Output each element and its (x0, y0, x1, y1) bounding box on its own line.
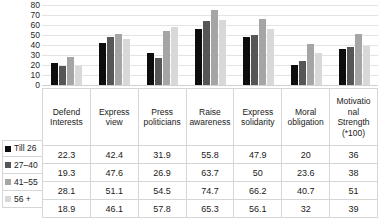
bar (211, 10, 218, 85)
bar (67, 57, 74, 85)
y-axis-tick-label: 20 (18, 61, 40, 70)
table-cell: 57.8 (138, 200, 186, 218)
legend-swatch-icon (5, 162, 11, 168)
bar (259, 19, 266, 85)
table-cell: 47.6 (90, 164, 138, 182)
table-cell: 42.4 (90, 146, 138, 164)
bar (251, 35, 258, 85)
table-header-row: Defend InterestsExpress viewPress politi… (43, 89, 378, 146)
bar-groups (42, 5, 378, 85)
bar (339, 49, 346, 85)
y-axis-tick-label: 50 (18, 31, 40, 40)
table-cell: 32 (282, 200, 330, 218)
bar-chart-with-data-table: 80706050403020100 Till 2627–4041–5556 + … (0, 0, 378, 218)
bar (75, 66, 82, 85)
table-cell: 40.7 (282, 182, 330, 200)
table-cell: 26.9 (138, 164, 186, 182)
legend-label: 56 + (14, 195, 31, 204)
bar (123, 39, 130, 85)
table-cell: 51.1 (90, 182, 138, 200)
table-cell: 74.7 (186, 182, 234, 200)
bar (195, 29, 202, 85)
data-table: Defend InterestsExpress viewPress politi… (42, 88, 378, 218)
column-header: Express view (90, 89, 138, 146)
bar (307, 44, 314, 85)
bar (171, 27, 178, 85)
bar (299, 61, 306, 85)
legend-swatch-icon (5, 196, 11, 202)
plot-area (42, 5, 378, 85)
bar (155, 58, 162, 85)
column-header: Motivatio nal Strength (*100) (330, 89, 378, 146)
table-cell: 51 (330, 182, 378, 200)
table-cell: 46.1 (90, 200, 138, 218)
table-cell: 47.9 (234, 146, 282, 164)
bar (291, 65, 298, 85)
bar (355, 34, 362, 85)
bar (59, 66, 66, 85)
y-axis-tick-label: 30 (18, 51, 40, 60)
bar-group (90, 5, 138, 85)
bar (347, 47, 354, 85)
table-cell: 38 (330, 164, 378, 182)
table-cell: 54.5 (138, 182, 186, 200)
bar (147, 53, 154, 85)
bar-group (42, 5, 90, 85)
legend-column: Till 2627–4041–5556 + (2, 140, 43, 208)
bar-group (234, 5, 282, 85)
legend-label: 27–40 (14, 161, 38, 170)
bar (115, 34, 122, 85)
table-cell: 31.9 (138, 146, 186, 164)
bar (243, 37, 250, 85)
bar-group (282, 5, 330, 85)
table-cell: 55.8 (186, 146, 234, 164)
y-axis-tick-label: 60 (18, 21, 40, 30)
legend-label: Till 26 (14, 144, 36, 153)
legend-swatch-icon (5, 179, 11, 185)
bar (107, 37, 114, 85)
bar (99, 43, 106, 85)
legend-item: Till 26 (2, 140, 43, 157)
table-cell: 50 (234, 164, 282, 182)
bar (267, 29, 274, 85)
legend-swatch-icon (5, 146, 11, 152)
column-header: Press politicians (138, 89, 186, 146)
bar (315, 53, 322, 85)
gridline (42, 85, 378, 86)
bar-group (186, 5, 234, 85)
column-header: Moral obligation (282, 89, 330, 146)
table-row: 28.151.154.574.766.240.751 (43, 182, 378, 200)
table-cell: 28.1 (43, 182, 91, 200)
y-axis: 80706050403020100 (18, 5, 40, 85)
y-axis-tick-label: 80 (18, 1, 40, 10)
table-cell: 65.3 (186, 200, 234, 218)
legend-item: 27–40 (2, 157, 43, 174)
column-header: Defend Interests (43, 89, 91, 146)
bar (203, 21, 210, 85)
table-row: 19.347.626.963.75023.638 (43, 164, 378, 182)
legend-item: 56 + (2, 191, 43, 208)
legend-item: 41–55 (2, 174, 43, 191)
table-cell: 18.9 (43, 200, 91, 218)
table-row: 22.342.431.955.847.92036 (43, 146, 378, 164)
y-axis-tick-label: 40 (18, 41, 40, 50)
bar (219, 20, 226, 85)
table-cell: 56.1 (234, 200, 282, 218)
column-header: Raise awareness (186, 89, 234, 146)
table-cell: 19.3 (43, 164, 91, 182)
y-axis-tick-label: 70 (18, 11, 40, 20)
table-cell: 22.3 (43, 146, 91, 164)
table-cell: 39 (330, 200, 378, 218)
legend-label: 41–55 (14, 178, 38, 187)
bar (51, 63, 58, 85)
bar (163, 31, 170, 86)
bar-group (330, 5, 378, 85)
table-cell: 66.2 (234, 182, 282, 200)
table-cell: 20 (282, 146, 330, 164)
table-cell: 36 (330, 146, 378, 164)
table-cell: 63.7 (186, 164, 234, 182)
y-axis-tick-label: 0 (18, 81, 40, 90)
table-row: 18.946.157.865.356.13239 (43, 200, 378, 218)
table-cell: 23.6 (282, 164, 330, 182)
bar (363, 46, 370, 85)
